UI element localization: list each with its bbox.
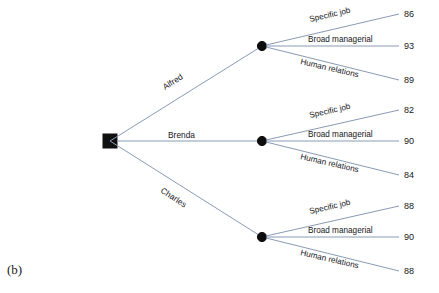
chance-node-alfred[interactable] (257, 41, 266, 50)
payoff-charles-broad-managerial: 90 (404, 232, 414, 242)
payoff-brenda-specific-job: 82 (404, 105, 414, 115)
payoff-alfred-broad-managerial: 93 (404, 41, 414, 51)
leaf-label-brenda-broad-managerial: Broad managerial (308, 130, 373, 139)
payoff-brenda-broad-managerial: 90 (404, 136, 414, 146)
leaf-label-brenda-human-relations: Human relations (300, 152, 360, 174)
payoff-alfred-specific-job: 86 (404, 9, 414, 19)
chance-node-brenda[interactable] (257, 136, 266, 145)
decision-tree-svg: Alfred Specific job Broad managerial Hum… (0, 0, 439, 293)
branch-label-charles: Charles (159, 185, 189, 209)
decision-tree-figure: Alfred Specific job Broad managerial Hum… (0, 0, 439, 293)
leaf-label-alfred-broad-managerial: Broad managerial (308, 35, 373, 44)
leaf-label-brenda-specific-job: Specific job (308, 102, 351, 120)
leaf-label-alfred-human-relations: Human relations (300, 57, 360, 79)
leaf-label-charles-specific-job: Specific job (308, 198, 351, 216)
leaf-label-charles-human-relations: Human relations (300, 248, 360, 270)
chance-node-charles[interactable] (257, 232, 266, 241)
branch-line-charles[interactable] (110, 141, 262, 237)
figure-caption: (b) (7, 262, 22, 278)
payoff-charles-human-relations: 88 (404, 266, 414, 276)
leaf-label-charles-broad-managerial: Broad managerial (308, 226, 373, 235)
payoff-charles-specific-job: 88 (404, 201, 414, 211)
branch-label-brenda: Brenda (168, 130, 195, 140)
branch-label-alfred: Alfred (161, 71, 185, 91)
leaf-label-alfred-specific-job: Specific job (308, 6, 351, 24)
payoff-alfred-human-relations: 89 (404, 75, 414, 85)
payoff-brenda-human-relations: 84 (404, 170, 414, 180)
branch-line-alfred[interactable] (110, 46, 262, 141)
